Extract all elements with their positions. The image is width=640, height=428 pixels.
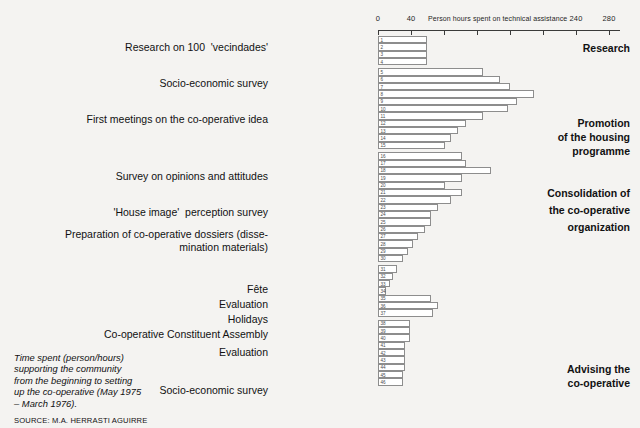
- bar-row: 28: [378, 240, 620, 247]
- bar-21: 21: [378, 189, 462, 196]
- task-label-socio-economic-survey-1: Socio-economic survey: [159, 77, 268, 89]
- axis-tick-label-40: 40: [407, 14, 416, 23]
- bar-row: 40: [378, 334, 620, 341]
- bar-18: 18: [378, 167, 491, 174]
- caption-line-5: – March 1976).: [14, 398, 214, 409]
- bar-row: 32: [378, 273, 620, 280]
- bar-5: 5: [378, 68, 483, 75]
- bar-1: 1: [378, 36, 427, 43]
- axis-tick-label-280: 280: [602, 14, 615, 23]
- bar-row: 18: [378, 167, 620, 174]
- bar-row-number: 37: [381, 310, 386, 318]
- axis-tick-240: [576, 30, 577, 35]
- bar-row: 10: [378, 105, 620, 112]
- task-label-dossiers-line1: Preparation of co-operative dossiers (di…: [65, 228, 268, 240]
- phase-label-consolidation-line3: organization: [505, 220, 630, 234]
- bar-2: 2: [378, 43, 427, 50]
- bar-row: 35: [378, 295, 620, 302]
- bar-row: 4: [378, 58, 620, 65]
- bar-14: 14: [378, 134, 451, 141]
- task-label-dossiers-line2: mination materials): [179, 241, 268, 253]
- chart-canvas: 0 40 240 280 Person hours spent on techn…: [0, 0, 640, 428]
- bar-43: 43: [378, 356, 405, 363]
- bar-row-number: 15: [381, 142, 386, 150]
- bar-37: 37: [378, 309, 433, 316]
- phase-label-research: Research: [530, 41, 630, 55]
- caption-line-1: Time spent (person/hours): [14, 352, 214, 363]
- axis-tick-80: [444, 30, 445, 35]
- x-axis-title: Person hours spent on technical assistan…: [428, 15, 567, 22]
- bar-row: 39: [378, 327, 620, 334]
- bar-6: 6: [378, 76, 500, 83]
- phase-label-consolidation-line2: the co-operative: [505, 203, 630, 217]
- bar-25: 25: [378, 218, 431, 225]
- bar-row: 29: [378, 248, 620, 255]
- phase-label-promotion-line1: Promotion: [530, 116, 630, 130]
- bar-row: 38: [378, 320, 620, 327]
- axis-tick-160: [510, 30, 511, 35]
- bar-row: 30: [378, 255, 620, 262]
- bar-row: 8: [378, 90, 620, 97]
- bar-24: 24: [378, 211, 431, 218]
- bar-8: 8: [378, 90, 534, 97]
- bar-row: 17: [378, 160, 620, 167]
- bar-row-number: 46: [381, 379, 386, 387]
- bar-row: 7: [378, 83, 620, 90]
- task-label-research: Research on 100 'vecindades': [125, 41, 268, 53]
- axis-tick-label-240: 240: [569, 14, 582, 23]
- bar-29: 29: [378, 248, 408, 255]
- axis-tick-280: [609, 30, 610, 35]
- phase-label-promotion-line3: programme: [530, 144, 630, 158]
- bar-row: 37: [378, 309, 620, 316]
- bar-27: 27: [378, 233, 418, 240]
- bar-row: 34: [378, 287, 620, 294]
- bar-row: 6: [378, 76, 620, 83]
- bar-4: 4: [378, 58, 427, 65]
- x-axis-line: [378, 30, 620, 31]
- task-label-house-image: 'House image' perception survey: [113, 206, 268, 218]
- bar-10: 10: [378, 105, 508, 112]
- task-label-opinions-survey: Survey on opinions and attitudes: [116, 170, 268, 182]
- bar-row-number: 30: [381, 255, 386, 263]
- bar-36: 36: [378, 302, 438, 309]
- caption-block: Time spent (person/hours) supporting the…: [14, 352, 214, 425]
- axis-tick-40: [411, 30, 412, 35]
- bar-row: 36: [378, 302, 620, 309]
- task-label-fete: Fête: [247, 283, 268, 295]
- bar-row: 19: [378, 174, 620, 181]
- bar-row: 5: [378, 68, 620, 75]
- task-label-holidays: Holidays: [228, 313, 268, 325]
- axis-tick-label-0: 0: [376, 14, 380, 23]
- bar-38: 38: [378, 320, 410, 327]
- bar-32: 32: [378, 273, 393, 280]
- bar-7: 7: [378, 83, 510, 90]
- bar-44: 44: [378, 364, 405, 371]
- bar-28: 28: [378, 240, 413, 247]
- axis-tick-120: [477, 30, 478, 35]
- bar-40: 40: [378, 334, 410, 341]
- bar-33: 33: [378, 280, 390, 287]
- bar-19: 19: [378, 174, 462, 181]
- bar-9: 9: [378, 98, 517, 105]
- bar-23: 23: [378, 204, 438, 211]
- task-label-evaluation-1: Evaluation: [219, 298, 268, 310]
- bar-row: 33: [378, 280, 620, 287]
- bar-row: 31: [378, 265, 620, 272]
- bar-26: 26: [378, 226, 425, 233]
- phase-label-advising-line1: Advising the: [530, 362, 630, 376]
- bar-17: 17: [378, 160, 466, 167]
- bar-39: 39: [378, 327, 410, 334]
- bar-row: 42: [378, 349, 620, 356]
- task-label-evaluation-2: Evaluation: [219, 346, 268, 358]
- bar-31: 31: [378, 265, 397, 272]
- task-label-first-meetings: First meetings on the co-operative idea: [86, 113, 268, 125]
- task-label-assembly: Co-operative Constituent Assembly: [104, 328, 268, 340]
- bar-16: 16: [378, 152, 462, 159]
- bar-12: 12: [378, 120, 466, 127]
- axis-tick-0: [378, 30, 379, 35]
- phase-label-advising-line2: co-operative: [530, 376, 630, 390]
- phase-label-promotion-line2: of the housing: [530, 130, 630, 144]
- bar-row: 41: [378, 342, 620, 349]
- caption-line-2: supporting the community: [14, 363, 214, 374]
- bar-35: 35: [378, 295, 431, 302]
